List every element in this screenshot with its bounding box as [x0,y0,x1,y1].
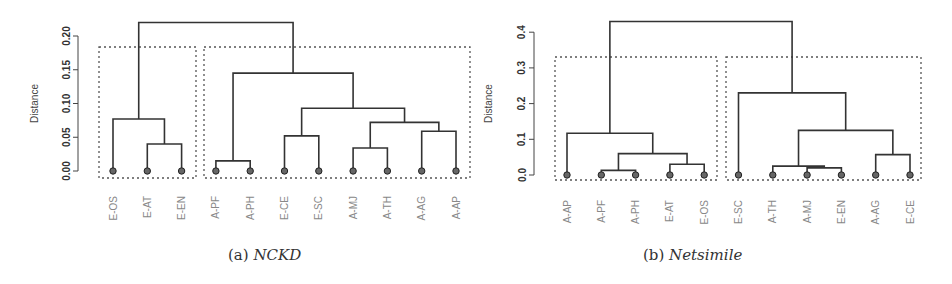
leaf-label: E-AT [664,200,675,222]
leaf-label: E-OS [108,196,119,221]
leaf-marker [178,168,184,174]
leaf-label: E-SC [733,200,744,224]
caption-b-prefix: (b) [643,246,664,264]
y-tick-label: 0.20 [61,26,72,46]
leaf-marker [247,168,253,174]
dendrogram-panel-b: 0.00.10.20.30.4DistanceA-APA-PFA-PHE-ATE… [483,21,921,224]
leaf-marker [907,172,913,178]
leaf-marker [564,172,570,178]
leaf-marker [838,172,844,178]
leaf-marker [667,172,673,178]
leaf-marker [350,168,356,174]
caption-b-name: Netsimile [669,246,742,264]
leaf-label: A-PF [210,196,221,219]
y-tick-label: 0.10 [61,93,72,113]
y-tick-label: 0.2 [517,96,528,110]
y-axis: 0.00.10.20.30.4Distance [483,25,534,182]
leaf-marker [110,168,116,174]
leaf-label: A-PH [245,196,256,220]
leaf-marker [632,172,638,178]
leaf-marker [384,168,390,174]
y-axis-label: Distance [483,84,494,123]
caption-b: (b) Netsimile [643,246,742,264]
caption-a-prefix: (a) [228,246,249,264]
y-tick-label: 0.4 [517,25,528,39]
leaf-marker [804,172,810,178]
y-tick-label: 0.1 [517,132,528,146]
tree-links [113,23,456,172]
leaf-marker [770,172,776,178]
leaf-label: A-PH [630,200,641,224]
leaf-label: A-AG [416,196,427,221]
y-tick-label: 0.05 [61,127,72,147]
tree-links [567,21,910,175]
leaf-label: E-CE [279,196,290,220]
y-tick-label: 0.3 [517,61,528,75]
leaf-label: E-SC [313,196,324,220]
leaf-label: E-EN [176,196,187,220]
y-axis-label: Distance [29,84,40,123]
leaf-marker [213,168,219,174]
leaf-label: E-OS [699,200,710,225]
leaf-label: A-AP [562,200,573,224]
leaf-label: A-TH [382,196,393,219]
leaf-marker [316,168,322,174]
y-tick-label: 0.15 [61,60,72,80]
leaf-label: E-CE [905,200,916,224]
leaf-marker [144,168,150,174]
leaf-label: A-PF [596,200,607,223]
leaf-label: A-TH [767,200,778,223]
cluster-box [555,57,717,180]
caption-a-name: NCKD [253,246,301,264]
leaf-label: A-AG [870,200,881,225]
y-tick-label: 0.00 [61,161,72,181]
leaf-marker [873,172,879,178]
leaf-marker [419,168,425,174]
cluster-box [726,57,921,180]
leaf-label: E-EN [836,200,847,224]
dendrogram-panel-a: 0.000.050.100.150.20DistanceE-OSE-ATE-EN… [29,23,470,221]
leaf-label: A-MJ [802,200,813,223]
leaf-marker [701,172,707,178]
y-axis: 0.000.050.100.150.20Distance [29,26,78,181]
leaf-label: E-AT [142,196,153,218]
y-tick-label: 0.0 [517,168,528,182]
leaf-label: A-AP [451,196,462,220]
leaf-label: A-MJ [348,196,359,219]
cluster-box [204,47,470,178]
leaf-marker [598,172,604,178]
caption-a: (a) NCKD [228,246,301,264]
leaf-marker [453,168,459,174]
leaf-marker [735,172,741,178]
dendrogram-figure: 0.000.050.100.150.20DistanceE-OSE-ATE-EN… [0,0,952,284]
leaf-marker [281,168,287,174]
